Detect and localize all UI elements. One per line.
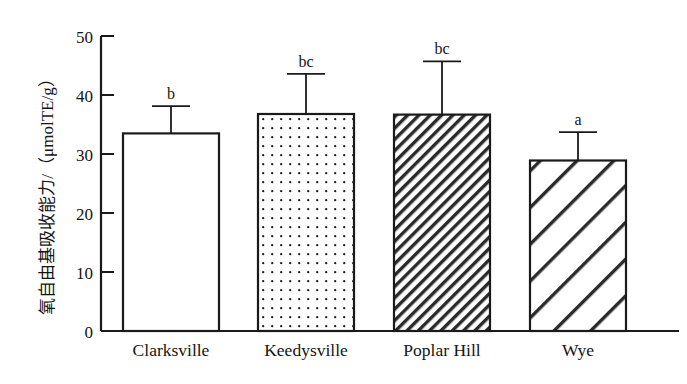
x-tick-label-clarksville: Clarksville	[133, 340, 210, 360]
bar-group-clarksville: b	[123, 85, 219, 331]
y-tick-label: 40	[76, 87, 93, 106]
bar-fill-keedysville	[258, 114, 354, 331]
significance-letter-clarksville: b	[167, 85, 175, 102]
y-tick-label: 30	[76, 146, 93, 165]
bar-clarksville	[123, 133, 219, 331]
significance-letter-wye: a	[574, 111, 581, 128]
bar-group-poplar-hill: bc	[394, 40, 490, 331]
bar-group-keedysville: bc	[258, 53, 354, 332]
x-tick-label-wye: Wye	[562, 340, 594, 360]
y-axis-ticks: 50 40 30 20 10 0	[76, 28, 114, 342]
orac-bar-chart-figure: 氧自由基吸收能力/（μmolTE/g） 50 40 30 20 10	[0, 0, 687, 384]
bar-fill-wye	[530, 161, 626, 332]
y-tick-label: 10	[76, 264, 93, 283]
y-tick-label: 50	[76, 28, 93, 47]
x-tick-label-poplar-hill: Poplar Hill	[403, 340, 480, 360]
x-axis-category-labels: Clarksville Keedysville Poplar Hill Wye	[133, 340, 595, 360]
chart-canvas: 50 40 30 20 10 0	[0, 0, 687, 384]
bar-fill-poplar-hill	[394, 115, 490, 331]
significance-letter-keedysville: bc	[298, 53, 313, 70]
y-tick-label: 20	[76, 205, 93, 224]
significance-letter-poplar-hill: bc	[434, 40, 449, 57]
y-tick-label: 0	[85, 323, 94, 342]
x-tick-label-keedysville: Keedysville	[264, 340, 348, 360]
bar-group-wye: a	[530, 111, 626, 332]
